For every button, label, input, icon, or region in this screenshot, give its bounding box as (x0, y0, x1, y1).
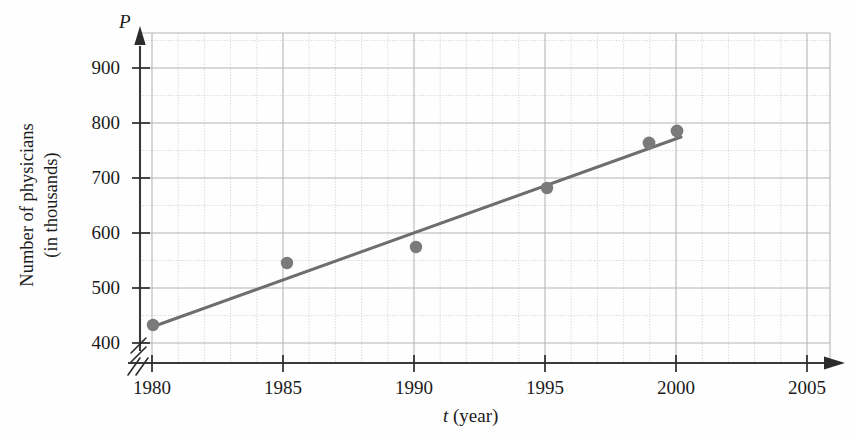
x-tick-label-1995: 1995 (500, 377, 590, 399)
data-point (281, 257, 293, 269)
data-point (671, 125, 684, 138)
major-horizontal-gridlines (140, 33, 830, 343)
x-tick-label-2005: 2005 (762, 377, 852, 399)
y-axis-title-line1: Number of physicians (16, 80, 40, 330)
p-axis-symbol: P (119, 11, 131, 33)
y-axis-title-line2: (in thousands) (40, 80, 64, 330)
plot-area (0, 0, 857, 441)
axis-lines (128, 26, 845, 370)
regression-line (152, 137, 681, 327)
minor-vertical-gridlines (178, 33, 781, 363)
data-point (147, 319, 159, 331)
x-tick-label-2000: 2000 (631, 377, 721, 399)
x-axis-title: t (year) (443, 405, 498, 427)
physicians-scatter-chart: P 900 800 700 600 500 400 1980 1985 1990… (0, 0, 857, 441)
y-axis-title: Number of physicians (in thousands) (16, 80, 63, 330)
x-tick-label-1990: 1990 (369, 377, 459, 399)
data-point (643, 137, 656, 150)
y-tick-label-400: 400 (48, 332, 120, 354)
x-tick-label-1985: 1985 (238, 377, 328, 399)
data-point (541, 182, 553, 194)
x-tick-label-1980: 1980 (107, 377, 197, 399)
data-point (410, 241, 422, 253)
y-tick-label-900: 900 (48, 57, 120, 79)
x-axis-title-unit: (year) (453, 405, 498, 426)
